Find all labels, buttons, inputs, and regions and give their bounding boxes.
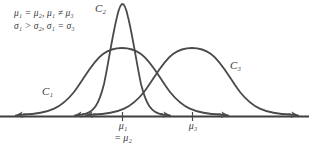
curve-c2-left-arrow [74, 114, 85, 115]
axis-label-mu1: μ₁ [110, 120, 136, 133]
curve-label-c2: C₂ [95, 2, 106, 16]
curve-c2 [74, 4, 171, 116]
curve-c3-left-arrow [85, 114, 96, 115]
curve-label-c1: C₁ [42, 85, 53, 99]
axis-label-mu3: μ₃ [180, 120, 206, 133]
curve-c2-right-arrow [160, 114, 171, 115]
conditions-block: μ₁ = μ₂, μ₁ ≠ μ₃ σ₁ > σ₂, σ₁ = σ₃ [14, 8, 75, 34]
axis-label-mu1-equals-mu2: = μ₂ [107, 132, 139, 145]
curve-c1-left-arrow [15, 114, 26, 115]
normal-curves-figure: μ₁ = μ₂, μ₁ ≠ μ₃ σ₁ > σ₂, σ₁ = σ₃ C₁ C₂ … [0, 0, 309, 149]
condition-sigmas: σ₁ > σ₂, σ₁ = σ₃ [14, 21, 75, 33]
curve-c1-right-arrow [218, 114, 229, 115]
curve-c3 [85, 48, 299, 116]
condition-means: μ₁ = μ₂, μ₁ ≠ μ₃ [14, 8, 75, 20]
curve-label-c3: C₃ [230, 59, 241, 73]
curve-c3-right-arrow [288, 114, 299, 115]
curve-c1 [15, 48, 229, 116]
